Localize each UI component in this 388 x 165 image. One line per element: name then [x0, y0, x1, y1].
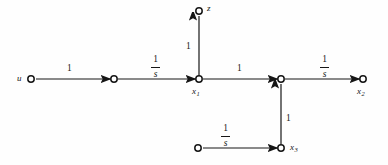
node-sum-right[interactable]: [278, 76, 284, 82]
fraction-bar: [151, 67, 160, 68]
signal-flow-graph-figure: u z x1 x2 x3 1 1 1 1 1 s 1 s 1 s: [0, 0, 388, 165]
gain-sum-to-x2-numerator: 1: [320, 55, 329, 66]
gain-src-to-x3: 1 s: [221, 124, 230, 148]
gain-mid-to-x1-denominator: s: [151, 69, 160, 80]
gain-x1-to-z: 1: [186, 42, 191, 52]
node-mid-left[interactable]: [111, 76, 117, 82]
node-label-x2-subscript: 2: [361, 90, 365, 97]
gain-x1-to-sum: 1: [237, 64, 242, 74]
node-x1[interactable]: [196, 76, 202, 82]
node-label-u: u: [17, 74, 22, 83]
node-label-x1: x1: [192, 87, 200, 98]
gain-x3-to-sum: 1: [286, 114, 291, 124]
gain-x1-to-sum-text: 1: [237, 63, 242, 73]
node-label-x2: x2: [357, 87, 365, 98]
fraction-bar: [320, 67, 329, 68]
node-x3[interactable]: [278, 145, 284, 151]
gain-src-to-x3-denominator: s: [221, 138, 230, 149]
fraction-bar: [221, 136, 230, 137]
gain-u-to-mid: 1: [67, 64, 72, 74]
node-label-z: z: [207, 4, 211, 13]
gain-src-to-x3-numerator: 1: [221, 124, 230, 135]
node-label-x3: x3: [290, 143, 298, 154]
node-label-x3-subscript: 3: [294, 146, 298, 153]
gain-sum-to-x2: 1 s: [320, 55, 329, 79]
node-label-z-text: z: [207, 3, 211, 13]
gain-mid-to-x1-numerator: 1: [151, 55, 160, 66]
gain-x1-to-z-text: 1: [186, 41, 191, 51]
node-input-u[interactable]: [28, 76, 34, 82]
node-label-u-text: u: [17, 73, 22, 83]
node-x2[interactable]: [360, 76, 366, 82]
gain-sum-to-x2-denominator: s: [320, 69, 329, 80]
gain-u-to-mid-text: 1: [67, 63, 72, 73]
gain-x3-to-sum-text: 1: [286, 113, 291, 123]
gain-mid-to-x1: 1 s: [151, 55, 160, 79]
signal-flow-graph-canvas: [0, 0, 388, 165]
node-src-bottom[interactable]: [195, 145, 201, 151]
node-label-x1-subscript: 1: [196, 90, 200, 97]
node-z[interactable]: [196, 8, 202, 14]
